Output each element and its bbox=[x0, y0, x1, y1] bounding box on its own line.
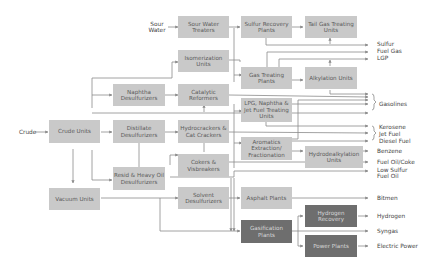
product-sulfur: Sulfur bbox=[377, 41, 394, 47]
sour-water-treaters-box: Sour Water Treaters bbox=[178, 16, 229, 38]
product-lgp: LGP bbox=[377, 55, 388, 61]
hydrocrackers-cat-crackers-box: Hydrocrackers & Cat Crackers bbox=[178, 120, 229, 143]
product-benzene: Benzene bbox=[377, 148, 402, 154]
product-electric-power: Electric Power bbox=[377, 243, 418, 249]
sulfur-recovery-plants-box: Sulfur Recovery Plants bbox=[241, 16, 292, 38]
product-kerosene: Kerosene bbox=[379, 124, 406, 130]
power-plants-box: Power Plants bbox=[305, 235, 357, 257]
resid-heavy-oil-desulfurizers-box: Resid & Heavy Oil Desulfurizers bbox=[113, 167, 165, 190]
product-fuel-gas: Fuel Gas bbox=[377, 48, 402, 54]
gas-treating-plants-box: Gas Treating Plants bbox=[241, 67, 292, 89]
lpg-naphtha-jet-fuel-treating-units-box: LPG, Naphtha & Jet Fuel Treating Units bbox=[241, 98, 292, 122]
naphtha-desulfurizers-box: Naphtha Desulfurizers bbox=[113, 84, 165, 106]
product-diesel-fuel: Diesel Fuel bbox=[379, 138, 411, 144]
product-low-sulfur-fuel-oil: Low Sulfur Fuel Oil bbox=[377, 167, 407, 180]
aromatics-extraction-fractionation-box: Aromatics Extraction/ Fractionation bbox=[241, 137, 292, 160]
vacuum-units-box: Vacuum Units bbox=[49, 188, 100, 210]
crude-units-box: Crude Units bbox=[49, 120, 100, 143]
product-syngas: Syngas bbox=[377, 228, 398, 234]
isomerization-units-box: Isomerization Units bbox=[178, 50, 229, 72]
asphalt-plants-box: Asphalt Plants bbox=[241, 187, 292, 209]
catalytic-reformers-box: Catalytic Reformers bbox=[178, 84, 229, 106]
crude-label: Crude bbox=[19, 129, 36, 135]
alkylation-units-box: Alkylation Units bbox=[305, 67, 357, 89]
tail-gas-treating-units-box: Tail Gas Treating Units bbox=[305, 16, 357, 38]
sour-water-label: Sour Water bbox=[147, 21, 167, 34]
hydrogen-recovery-box: Hydrogen Recovery bbox=[305, 205, 357, 227]
solvent-desulfurizers-box: Solvent Desulfurizers bbox=[178, 187, 229, 209]
product-gasolines: Gasolines bbox=[379, 101, 407, 107]
distillate-desulfurizers-box: Distillate Desulfurizers bbox=[113, 120, 165, 143]
product-jet-fuel: Jet Fuel bbox=[379, 131, 400, 137]
cokers-visbreakers-box: Cokers & Visbreakers bbox=[178, 154, 229, 177]
gasification-plants-box: Gasification Plants bbox=[241, 220, 292, 243]
hydrodealkylation-units-box: Hydrodealkylation Units bbox=[305, 146, 363, 168]
product-hydrogen: Hydrogen bbox=[377, 213, 405, 219]
product-fuel-oil-coke: Fuel Oil/Coke bbox=[377, 159, 415, 165]
product-bitmen: Bitmen bbox=[377, 195, 398, 201]
